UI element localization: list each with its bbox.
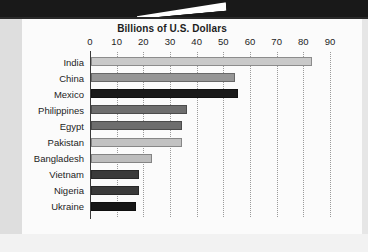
bottom-margin-strip xyxy=(0,234,368,252)
category-label: Vietnam xyxy=(22,170,84,180)
x-axis-tick-label: 10 xyxy=(106,36,128,47)
x-axis-tick-label: 80 xyxy=(292,36,314,47)
bar xyxy=(91,154,152,163)
x-axis-tick-label: 40 xyxy=(186,36,208,47)
x-axis-tick-label: 50 xyxy=(212,36,234,47)
x-axis-tick-label: 90 xyxy=(319,36,341,47)
category-label: Nigeria xyxy=(22,186,84,196)
category-label: Pakistan xyxy=(22,138,84,148)
x-axis-tick-label: 20 xyxy=(132,36,154,47)
category-label: China xyxy=(22,74,84,84)
chart-page: Billions of U.S. Dollars 010203040506070… xyxy=(0,0,368,252)
bar-chart: Billions of U.S. Dollars 010203040506070… xyxy=(22,19,362,234)
bar xyxy=(91,105,187,114)
x-axis-tick-label: 30 xyxy=(159,36,181,47)
gridline xyxy=(250,52,251,217)
gridline xyxy=(330,52,331,217)
category-label: Bangladesh xyxy=(22,154,84,164)
gridline xyxy=(303,52,304,217)
bar xyxy=(91,89,238,98)
bar xyxy=(91,121,182,130)
bar xyxy=(91,57,312,66)
category-label: Ukraine xyxy=(22,202,84,212)
x-axis-tick-label: 0 xyxy=(79,36,101,47)
category-label: Mexico xyxy=(22,90,84,100)
bar xyxy=(91,73,235,82)
category-label: Egypt xyxy=(22,122,84,132)
bar xyxy=(91,202,136,211)
x-axis-tick-label: 70 xyxy=(266,36,288,47)
bar xyxy=(91,138,182,147)
left-margin-strip xyxy=(0,19,22,252)
x-axis-tick-label: 60 xyxy=(239,36,261,47)
gridline xyxy=(277,52,278,217)
right-margin-strip xyxy=(362,19,368,252)
category-label: Philippines xyxy=(22,106,84,116)
bar xyxy=(91,170,139,179)
plot-area: 0102030405060708090 IndiaChinaMexicoPhil… xyxy=(22,19,362,234)
category-label: India xyxy=(22,58,84,68)
bar xyxy=(91,186,139,195)
